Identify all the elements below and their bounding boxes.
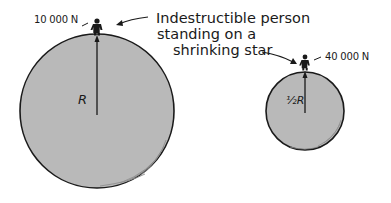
- pointer-arrow-large: [119, 17, 148, 24]
- small-star: [266, 71, 344, 150]
- person-icon-small: [299, 55, 310, 71]
- caption-line-1: Indestructible person: [156, 11, 310, 26]
- large-star: [20, 34, 174, 188]
- radius-label-large: R: [78, 93, 87, 106]
- caption-line-3: shrinking star: [173, 43, 272, 58]
- force-label-small: 40 000 N: [325, 52, 369, 62]
- radius-label-small: ½R: [286, 95, 304, 106]
- person-icon: [90, 18, 102, 35]
- force-label-large: 10 000 N: [34, 15, 78, 25]
- caption-line-2: standing on a: [157, 27, 256, 42]
